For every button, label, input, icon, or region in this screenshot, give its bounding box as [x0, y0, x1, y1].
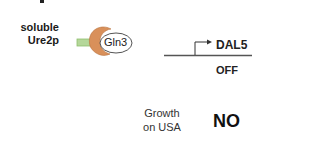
gln3-label: Gln3 — [104, 36, 127, 48]
gene-name: DAL5 — [216, 38, 247, 52]
growth-label-line2: on USA — [140, 120, 184, 134]
growth-result: NO — [213, 111, 240, 132]
growth-label-line1: Growth — [140, 106, 184, 120]
promoter-arrow-icon — [195, 42, 207, 55]
growth-label: Growth on USA — [140, 106, 184, 134]
gene-state: OFF — [216, 64, 238, 76]
arrowhead-icon — [207, 40, 212, 45]
ure2p-tail-icon — [77, 39, 91, 46]
